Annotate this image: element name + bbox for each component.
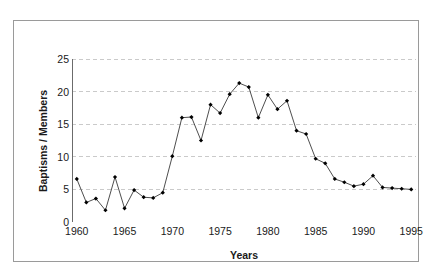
y-axis-tick-label: 10: [57, 151, 69, 163]
series-plot: [72, 59, 416, 222]
x-axis-tick-label: 1965: [113, 225, 136, 237]
plot-area: [72, 59, 416, 222]
x-axis-tick-label: 1995: [400, 225, 423, 237]
scan-artifact-top-text: [0, 0, 433, 7]
x-axis-title-label: Years: [72, 249, 416, 261]
y-axis-tick-labels: 0510152025: [27, 59, 69, 222]
x-axis-tick-label: 1985: [304, 225, 327, 237]
x-axis-tick-label: 1980: [256, 225, 279, 237]
chart-figure: Baptisms / Members 0510152025 1960196519…: [0, 0, 433, 274]
y-axis-tick-label: 5: [63, 183, 69, 195]
x-axis-tick-label: 1960: [65, 225, 88, 237]
x-axis-tick-labels: 19601965197019751980198519901995: [72, 225, 416, 241]
x-axis-tick-label: 1970: [161, 225, 184, 237]
y-axis-tick-label: 15: [57, 118, 69, 130]
figure-border: Baptisms / Members 0510152025 1960196519…: [13, 20, 419, 262]
x-axis-tick-label: 1975: [208, 225, 231, 237]
y-axis-tick-label: 25: [57, 53, 69, 65]
x-axis-tick-label: 1990: [352, 225, 375, 237]
y-axis-tick-label: 20: [57, 86, 69, 98]
